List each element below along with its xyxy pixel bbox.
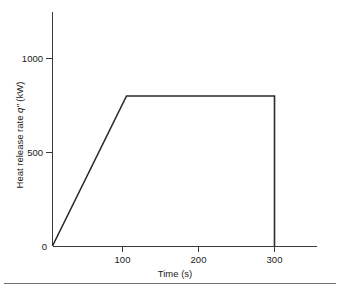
chart-figure: 1000 500 0 100 200 300 Time (s) Heat rel…: [0, 0, 340, 294]
y-axis-title: Heat release rate qʺ (kW): [14, 82, 25, 189]
x-tick-label-200: 200: [191, 254, 207, 265]
y-tick-label-1000: 1000: [22, 53, 43, 64]
x-tick-label-100: 100: [115, 254, 131, 265]
y-axis-title-prefix: Heat release rate: [14, 113, 25, 189]
y-tick-label-500: 500: [27, 147, 43, 158]
x-tick-label-300: 300: [267, 254, 283, 265]
y-axis-title-suffix: (kW): [14, 82, 25, 105]
heat-release-rate-line-chart: 1000 500 0 100 200 300 Time (s) Heat rel…: [0, 0, 340, 294]
x-axis-title: Time (s): [158, 268, 192, 279]
chart-background: [0, 0, 340, 294]
y-tick-label-0: 0: [42, 241, 47, 252]
